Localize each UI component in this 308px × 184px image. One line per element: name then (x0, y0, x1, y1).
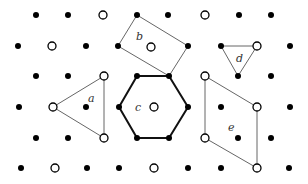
open-point (51, 164, 59, 172)
open-point (253, 103, 261, 111)
open-point (147, 43, 155, 51)
filled-point (185, 104, 191, 110)
filled-point (166, 135, 172, 141)
filled-point (236, 12, 242, 18)
filled-point (268, 135, 274, 141)
shape-label-a: a (88, 92, 95, 105)
shape-label-d: d (236, 52, 243, 65)
filled-point (218, 43, 224, 49)
filled-point (185, 165, 191, 171)
open-point (100, 72, 108, 80)
open-point (253, 42, 261, 50)
filled-point (218, 165, 224, 171)
filled-point (134, 135, 140, 141)
filled-point (115, 43, 121, 49)
open-point (201, 11, 209, 19)
filled-point (33, 135, 39, 141)
shape-label-b: b (136, 30, 143, 43)
filled-point (134, 73, 140, 79)
open-point (201, 72, 209, 80)
filled-point (65, 12, 71, 18)
filled-point (84, 165, 90, 171)
filled-point (65, 135, 71, 141)
filled-point (287, 104, 293, 110)
open-point (253, 164, 261, 172)
filled-point (134, 12, 140, 18)
open-point (150, 103, 158, 111)
shapes-layer (53, 15, 257, 168)
shape-label-e: e (228, 121, 235, 134)
filled-points-layer (15, 12, 293, 171)
filled-point (33, 73, 39, 79)
open-point (99, 11, 107, 19)
filled-point (287, 43, 293, 49)
open-point (49, 103, 57, 111)
filled-point (65, 73, 71, 79)
shape-a (53, 76, 104, 138)
filled-point (18, 165, 24, 171)
filled-point (15, 43, 21, 49)
shape-label-c: c (135, 101, 141, 114)
filled-point (235, 135, 241, 141)
filled-point (165, 12, 171, 18)
open-point (100, 134, 108, 142)
open-point (201, 134, 209, 142)
filled-point (286, 165, 292, 171)
open-point (48, 42, 56, 50)
filled-point (235, 73, 241, 79)
open-point (150, 164, 158, 172)
filled-point (116, 165, 122, 171)
filled-point (268, 12, 274, 18)
filled-point (268, 73, 274, 79)
filled-point (83, 43, 89, 49)
filled-point (116, 104, 122, 110)
open-points-layer (48, 11, 261, 172)
filled-point (218, 104, 224, 110)
filled-point (16, 104, 22, 110)
lattice-diagram: abcde (0, 0, 308, 184)
filled-point (33, 12, 39, 18)
filled-point (166, 73, 172, 79)
filled-point (185, 43, 191, 49)
